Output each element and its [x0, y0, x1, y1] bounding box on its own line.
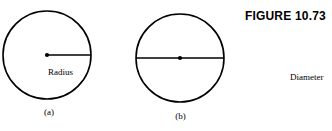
- panel-a-radius-circle: Radius (a): [2, 9, 96, 105]
- diameter-circle-diagram: [133, 12, 228, 107]
- figure-illustration: FIGURE 10.73 Radius (a) Diameter (b): [0, 0, 332, 131]
- radius-label: Radius: [48, 67, 73, 77]
- diameter-label: Diameter: [290, 72, 323, 82]
- panel-b-caption: (b): [133, 111, 228, 121]
- center-point-dot-a: [45, 53, 49, 57]
- radius-circle-diagram: [2, 9, 96, 105]
- center-point-dot-b: [178, 56, 182, 60]
- panel-a-caption: (a): [2, 107, 96, 117]
- figure-title: FIGURE 10.73: [245, 9, 326, 23]
- panel-b-diameter-circle: Diameter (b): [133, 12, 228, 107]
